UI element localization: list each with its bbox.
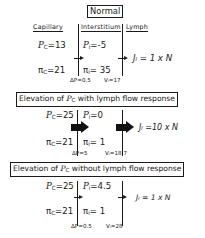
title-text: Normal [90,6,120,16]
lymph-flow-value: Jₗ = 1 x N [133,53,172,63]
interstitial-oncotic-pressure: πi= 1 [83,137,105,149]
section-title-without-lymph-response: Elevation of PC without lymph flow respo… [10,162,184,177]
lymph-flow-value: Jₗ = 1 x N [136,193,171,203]
interstitial-volume: Vᵢ=18.7 [105,150,127,157]
lymph-wall-line [122,181,123,226]
capillary-oncotic-pressure: πC=21 [46,137,73,149]
capillary-wall-line [77,181,78,226]
capillary-pressure: PC=25 [46,181,74,193]
filtration-arrow-icon [74,58,81,59]
lymph-flow-value: Jₗ =10 x N [139,123,178,133]
capillary-pressure: PC=25 [46,110,74,122]
section-title-normal: Normal [87,5,123,18]
capillary-wall-line [78,24,79,76]
filtration-arrow-icon [74,197,80,198]
interstitial-oncotic-pressure: πi= 1 [83,206,105,218]
column-header-capillary: Capillary [33,23,63,32]
capillary-pressure: PC=13 [38,40,66,52]
delta-pressure: ΔP=0.5 [71,223,92,230]
interstitial-oncotic-pressure: πi= 35 [83,65,111,77]
lymph-flow-arrow-icon [118,197,124,198]
interstitial-volume: Vᵢ=28 [106,223,123,230]
interstitial-volume: Vᵢ=17 [104,77,121,84]
lymph-flow-arrow-icon [118,58,125,59]
lymph-wall-line [122,24,123,76]
interstitial-pressure: Pi=-5 [83,40,106,52]
delta-pressure: ΔP=5 [72,150,87,157]
column-header-interstitium: Interstitium [81,23,121,32]
interstitial-pressure: Pi=4.5 [83,181,111,193]
capillary-oncotic-pressure: πC=21 [38,65,65,77]
delta-pressure: ΔP=0.5 [70,77,91,84]
column-header-lymph: Lymph [126,23,148,32]
capillary-oncotic-pressure: πC=21 [46,206,73,218]
section-title-with-lymph-response: Elevation of PC with lymph flow response [16,92,178,107]
